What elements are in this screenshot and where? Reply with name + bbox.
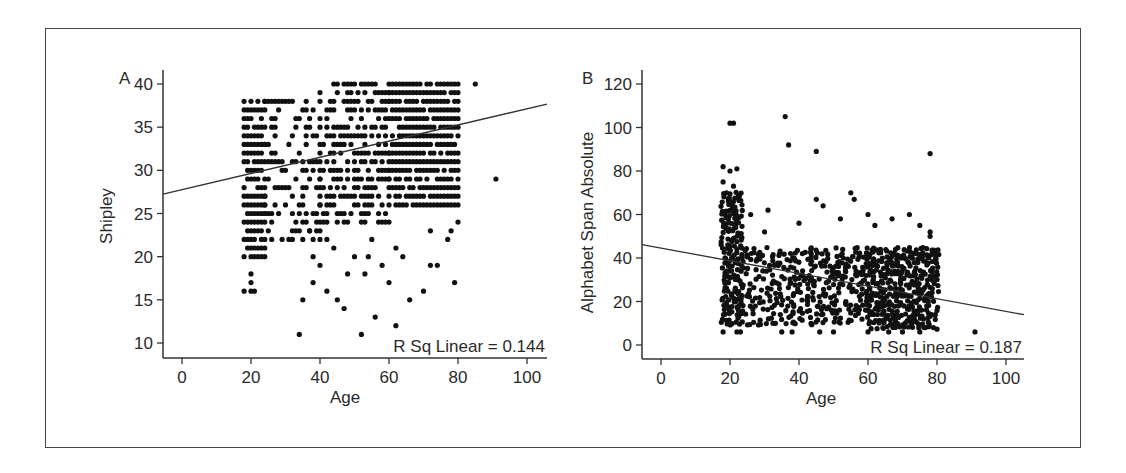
x-tick-label: 20 (721, 369, 740, 388)
y-axis-title-a: Shipley (97, 188, 116, 244)
x-tick-label: 20 (242, 368, 261, 387)
y-tick-label: 15 (134, 291, 153, 310)
scatter-points-a (242, 81, 499, 337)
panel-b-alphabet-span-vs-age: B 020406080100120020406080100 Age Alphab… (578, 69, 1024, 408)
y-tick-label: 20 (134, 248, 153, 267)
x-tick-label: 100 (513, 368, 541, 387)
y-tick-label: 40 (134, 75, 153, 94)
y-tick-label: 120 (604, 75, 632, 94)
panel-letter-a: A (119, 69, 131, 88)
y-tick-label: 30 (134, 161, 153, 180)
figure-canvas: A 10152025303540020406080100 Age Shipley… (0, 0, 1126, 473)
panel-a-shipley-vs-age: A 10152025303540020406080100 Age Shipley… (97, 69, 547, 407)
x-tick-label: 40 (311, 368, 330, 387)
x-tick-label: 100 (992, 369, 1020, 388)
y-tick-label: 0 (623, 336, 632, 355)
y-axis-title-b: Alphabet Span Absolute (578, 132, 597, 313)
r-squared-annotation-b: R Sq Linear = 0.187 (870, 338, 1022, 357)
panel-letter-b: B (582, 69, 593, 88)
x-tick-label: 80 (449, 368, 468, 387)
x-tick-label: 40 (790, 369, 809, 388)
y-tick-label: 25 (134, 205, 153, 224)
scatter-points-b (718, 114, 977, 335)
y-tick-label: 60 (613, 206, 632, 225)
y-tick-label: 35 (134, 118, 153, 137)
y-tick-label: 80 (613, 162, 632, 181)
y-tick-label: 20 (613, 293, 632, 312)
x-tick-label: 0 (177, 368, 186, 387)
x-tick-label: 60 (380, 368, 399, 387)
y-tick-label: 10 (134, 334, 153, 353)
y-tick-label: 100 (604, 119, 632, 138)
x-axis-title-b: Age (806, 389, 836, 408)
x-tick-label: 80 (928, 369, 947, 388)
y-tick-label: 40 (613, 249, 632, 268)
x-tick-label: 60 (859, 369, 878, 388)
r-squared-annotation-a: R Sq Linear = 0.144 (393, 337, 545, 356)
x-axis-title-a: Age (330, 388, 360, 407)
x-tick-label: 0 (656, 369, 665, 388)
